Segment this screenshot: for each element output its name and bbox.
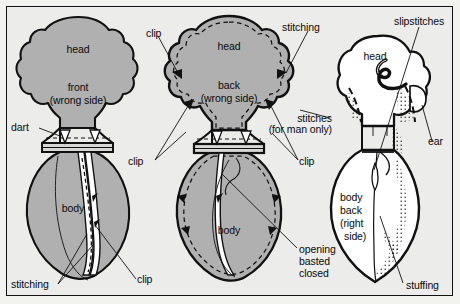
- front-piece-outline: [17, 17, 138, 128]
- panel-back-piece: [165, 16, 294, 281]
- label-opening: opening: [299, 244, 336, 256]
- label-bodyback-3: (right: [340, 218, 363, 230]
- label-stitching-back: stitching: [282, 22, 320, 34]
- label-bodyback-4: side): [344, 231, 366, 243]
- label-basted: basted: [299, 256, 330, 268]
- front-dart-right: [90, 130, 100, 143]
- label-stitching-front: stitching: [11, 279, 49, 291]
- label-back: back: [209, 80, 249, 92]
- label-dart: dart: [11, 122, 29, 134]
- label-body-back: body: [209, 225, 249, 237]
- front-piece-body-outline: [27, 152, 129, 279]
- label-clip-back-top: clip: [146, 28, 161, 40]
- back-dart-left: [212, 131, 222, 144]
- label-for-man-only: (for man only): [236, 124, 332, 136]
- label-clip-back-right: clip: [299, 156, 314, 168]
- label-head-bodyback: head: [355, 51, 395, 63]
- label-head-back: head: [209, 41, 249, 53]
- label-clip-front: clip: [137, 274, 152, 286]
- label-stuffing: stuffing: [406, 280, 439, 292]
- label-head-front: head: [58, 44, 98, 56]
- label-slipstitches: slipstitches: [394, 16, 444, 28]
- label-front-side: (wrong side): [40, 95, 116, 107]
- label-closed: closed: [299, 268, 329, 280]
- panel-front-piece: [17, 17, 138, 280]
- back-shoulder-left: [194, 130, 212, 144]
- leader-clip-3a: [155, 106, 188, 160]
- diagram-page: head front (wrong side) dart body stitch…: [0, 0, 460, 304]
- label-back-side: (wrong side): [191, 93, 267, 105]
- leader-clip-3b: [155, 132, 186, 160]
- label-body-front: body: [53, 203, 93, 215]
- panel-body-back-piece: [331, 36, 430, 282]
- label-ear: ear: [428, 136, 443, 148]
- leader-clip-4b: [272, 133, 298, 160]
- label-front: front: [54, 82, 102, 94]
- label-bodyback-1: body: [340, 192, 362, 204]
- front-dart-left: [60, 130, 70, 143]
- label-clip-back-left: clip: [128, 156, 143, 168]
- label-bodyback-2: back: [340, 205, 362, 217]
